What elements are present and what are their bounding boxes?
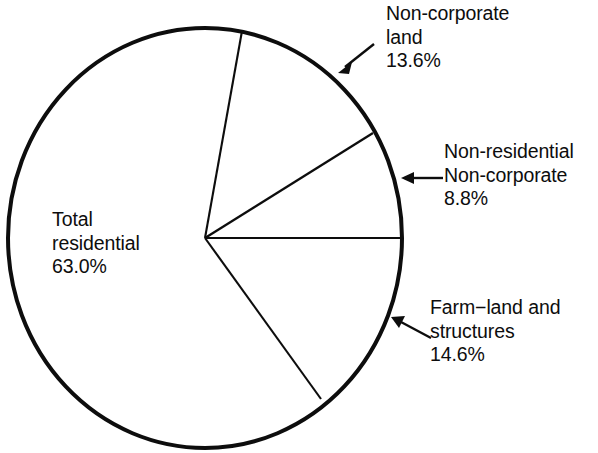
slice-label-line-name-cont: land [386, 26, 509, 50]
slice-label-line-name-cont: residential [52, 232, 140, 256]
slice-label-farm-land-and-structures: Farm−land and structures 14.6% [430, 296, 560, 367]
slice-label-line-name: Farm−land and [430, 296, 560, 320]
slice-label-line-name-cont: structures [430, 320, 560, 344]
slice-label-value: 8.8% [444, 187, 574, 211]
pie-chart: Non-corporate land 13.6% Non-residential… [0, 0, 598, 453]
slice-label-value: 63.0% [52, 255, 140, 279]
leader-arrow-farm-land-and-structures [391, 316, 431, 338]
slice-label-non-residential-non-corporate: Non-residential Non-corporate 8.8% [444, 140, 574, 211]
slice-label-line-name: Non-residential [444, 140, 574, 164]
slice-label-total-residential: Total residential 63.0% [52, 208, 140, 279]
slice-label-line-name: Non-corporate [386, 2, 509, 26]
slice-label-value: 13.6% [386, 49, 509, 73]
leader-arrow-non-residential-non-corporate [401, 172, 443, 184]
slice-label-value: 14.6% [430, 343, 560, 367]
slice-label-non-corporate-land: Non-corporate land 13.6% [386, 2, 509, 73]
slice-label-line-name: Total [52, 208, 140, 232]
slice-label-line-name-cont: Non-corporate [444, 164, 574, 188]
leader-arrow-non-corporate-land [338, 44, 374, 74]
